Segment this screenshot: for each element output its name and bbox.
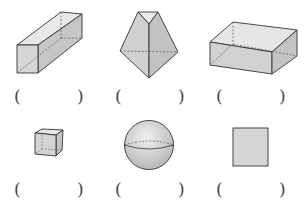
open-paren: ( [14, 88, 21, 105]
shape-rectangular-prism-long [17, 12, 82, 73]
close-paren: ) [178, 88, 185, 105]
open-paren: ( [216, 88, 223, 105]
close-paren: ) [77, 88, 84, 105]
close-paren: ) [178, 181, 185, 198]
shape-rectangle [233, 128, 268, 166]
close-paren: ) [279, 88, 286, 105]
shapes-diagram [0, 0, 307, 211]
shape-sphere [125, 121, 174, 170]
open-paren: ( [115, 181, 122, 198]
close-paren: ) [77, 181, 84, 198]
open-paren: ( [216, 181, 223, 198]
shape-rectangular-prism-flat [210, 22, 297, 74]
close-paren: ) [279, 181, 286, 198]
shape-triangular-prism [120, 12, 178, 78]
open-paren: ( [14, 181, 21, 198]
shape-cube [35, 129, 63, 156]
open-paren: ( [115, 88, 122, 105]
